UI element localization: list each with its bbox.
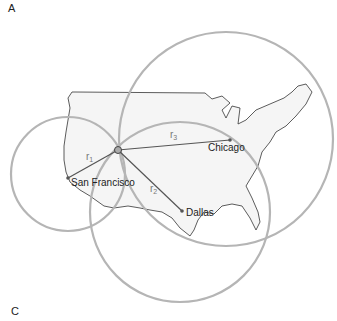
city-label-chicago: Chicago xyxy=(208,142,245,153)
city-label-dallas: Dallas xyxy=(186,207,214,218)
city-dot-san-francisco xyxy=(66,176,70,180)
trilateration-diagram: San Francisco Dallas Chicago r1 r2 r3 xyxy=(0,0,337,321)
city-dot-dallas xyxy=(180,209,184,213)
receiver-marker xyxy=(115,147,122,154)
city-label-san-francisco: San Francisco xyxy=(71,177,135,188)
